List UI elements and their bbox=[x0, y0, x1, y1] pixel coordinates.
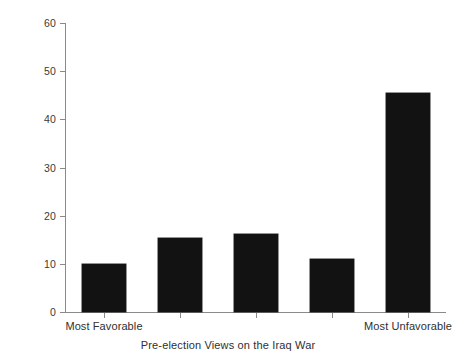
bar bbox=[310, 259, 354, 312]
x-axis-tick bbox=[332, 313, 333, 318]
x-axis-tick-label: Most Favorable bbox=[34, 320, 174, 333]
x-axis-title: Pre-election Views on the Iraq War bbox=[0, 339, 456, 352]
y-axis-tick bbox=[60, 216, 65, 217]
x-axis-tick bbox=[408, 313, 409, 318]
y-axis-tick-label-text: 40 bbox=[16, 114, 56, 124]
y-axis-tick bbox=[60, 71, 65, 72]
y-axis-tick-label: 20 bbox=[12, 211, 56, 221]
y-axis-tick-label: 0 bbox=[12, 307, 56, 317]
y-axis-tick-label-text: 60 bbox=[16, 18, 56, 28]
bar bbox=[386, 93, 430, 312]
y-axis-tick-label: 60 bbox=[12, 18, 56, 28]
y-axis-tick-label: 30 bbox=[12, 163, 56, 173]
y-axis-tick bbox=[60, 23, 65, 24]
y-axis-tick-label-text: 30 bbox=[16, 163, 56, 173]
y-axis-tick-label-text: 20 bbox=[16, 211, 56, 221]
x-axis-tick bbox=[180, 313, 181, 318]
x-axis-tick-label: Most Unfavorable bbox=[338, 320, 456, 333]
y-axis-tick-label: 50 bbox=[12, 66, 56, 76]
y-axis-tick-label-text: 10 bbox=[16, 259, 56, 269]
y-axis-tick-label: 40 bbox=[12, 114, 56, 124]
y-axis-tick bbox=[60, 168, 65, 169]
bar bbox=[82, 264, 126, 312]
y-axis-tick bbox=[60, 312, 65, 313]
bar bbox=[234, 234, 278, 312]
y-axis-tick-label: 10 bbox=[12, 259, 56, 269]
y-axis-tick bbox=[60, 264, 65, 265]
y-axis-tick-label-text: 0 bbox=[16, 307, 56, 317]
bar-chart-figure: 0102030405060 Most FavorableMost Unfavor… bbox=[0, 0, 456, 359]
x-axis-tick bbox=[256, 313, 257, 318]
x-axis-tick bbox=[104, 313, 105, 318]
y-axis-tick bbox=[60, 119, 65, 120]
y-axis-tick-label-text: 50 bbox=[16, 66, 56, 76]
bar bbox=[158, 238, 202, 312]
plot-area bbox=[66, 23, 446, 312]
